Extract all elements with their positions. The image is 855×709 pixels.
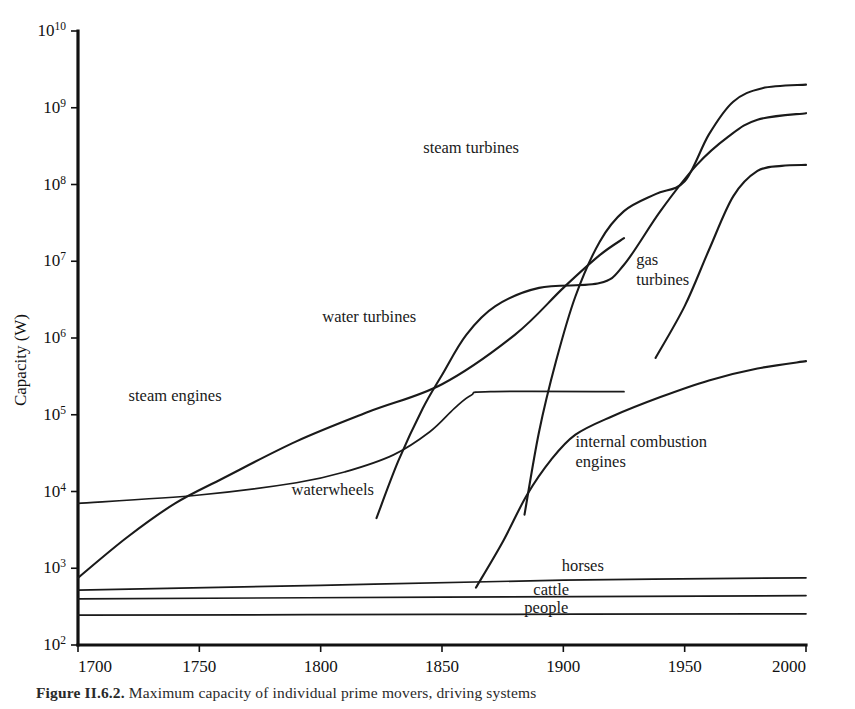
figure-container: 1021031041051061071081091010 17001750180… bbox=[0, 0, 855, 709]
series-curve-cattle bbox=[78, 596, 806, 599]
y-tick-label: 104 bbox=[43, 481, 66, 501]
series-label-water-turbines: water turbines bbox=[322, 307, 416, 326]
x-tick-label: 1900 bbox=[546, 657, 580, 676]
series-curve-internal-combustion-engines bbox=[476, 361, 806, 587]
series-curves bbox=[78, 85, 806, 615]
y-axis-tick-labels: 1021031041051061071081091010 bbox=[38, 20, 67, 654]
x-tick-label: 1850 bbox=[425, 657, 459, 676]
series-curve-people bbox=[78, 614, 806, 615]
axes bbox=[71, 31, 806, 652]
y-tick-label: 102 bbox=[43, 634, 66, 654]
x-tick-label: 1700 bbox=[78, 657, 112, 676]
y-tick-label: 109 bbox=[43, 97, 66, 117]
series-label-people: people bbox=[524, 598, 568, 617]
y-tick-label: 106 bbox=[43, 327, 66, 347]
x-tick-label: 1950 bbox=[668, 657, 702, 676]
y-tick-label: 107 bbox=[43, 250, 66, 270]
series-label-steam-engines: steam engines bbox=[129, 386, 222, 405]
series-labels: waterwheelssteam engineswater turbinesst… bbox=[129, 138, 707, 617]
y-tick-label: 1010 bbox=[38, 20, 67, 40]
caption-number: Figure II.6.2. bbox=[36, 684, 125, 701]
series-curve-gas-turbines bbox=[656, 165, 806, 358]
capacity-chart: 1021031041051061071081091010 17001750180… bbox=[0, 0, 855, 680]
series-label-waterwheels: waterwheels bbox=[292, 480, 374, 499]
x-tick-label: 2000 bbox=[772, 657, 806, 676]
y-axis-title: Capacity (W) bbox=[11, 314, 30, 406]
series-curve-steam-engines bbox=[78, 238, 624, 578]
series-label-gas-turbines: gasturbines bbox=[636, 250, 689, 289]
x-tick-label: 1750 bbox=[182, 657, 216, 676]
y-tick-label: 103 bbox=[43, 557, 66, 577]
series-label-cattle: cattle bbox=[533, 580, 569, 599]
y-tick-label: 105 bbox=[43, 404, 66, 424]
series-label-steam-turbines: steam turbines bbox=[423, 138, 519, 157]
y-tick-label: 108 bbox=[43, 174, 66, 194]
x-axis-tick-labels: 1700175018001850190019502000 bbox=[78, 657, 806, 676]
series-label-horses: horses bbox=[562, 556, 604, 575]
caption-text: Maximum capacity of individual prime mov… bbox=[129, 684, 537, 701]
series-label-internal-combustion-engines: internal combustionengines bbox=[575, 432, 707, 471]
x-tick-label: 1800 bbox=[304, 657, 338, 676]
figure-caption: Figure II.6.2. Maximum capacity of indiv… bbox=[0, 684, 855, 709]
series-curve-horses bbox=[78, 578, 806, 590]
